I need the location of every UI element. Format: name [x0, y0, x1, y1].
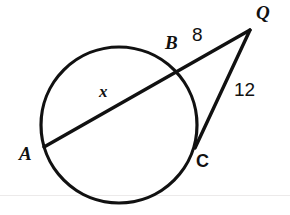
geometry-figure: A B C Q x 8 12: [0, 0, 290, 215]
measure-label-12: 12: [234, 80, 255, 99]
measure-label-8: 8: [192, 25, 203, 44]
circle-shape: [41, 47, 197, 203]
measure-label-x: x: [99, 83, 108, 100]
point-label-b: B: [165, 33, 178, 52]
point-label-q: Q: [256, 3, 270, 22]
point-label-c: C: [196, 152, 209, 170]
point-label-a: A: [19, 144, 32, 163]
geometry-canvas: [0, 0, 290, 215]
secant-line-aq: [44, 30, 250, 147]
